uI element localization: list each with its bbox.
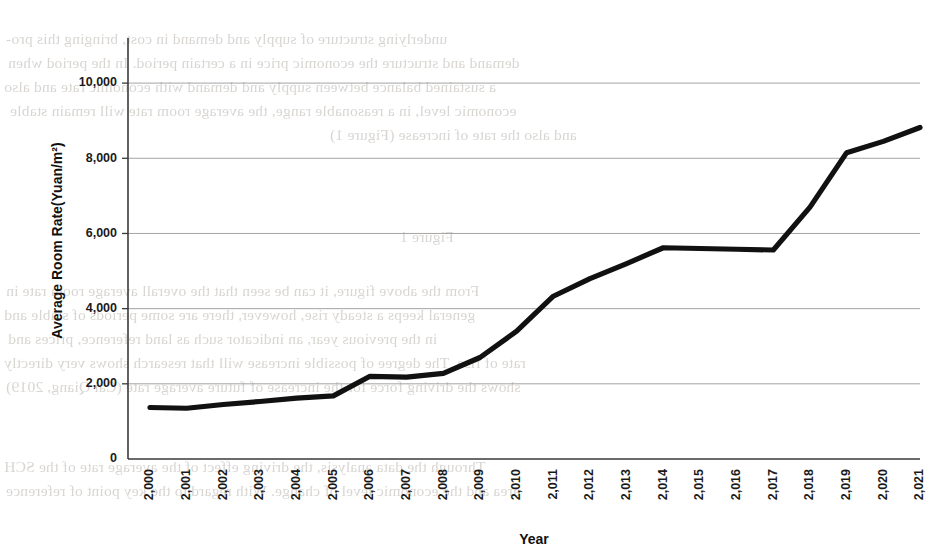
y-axis-title: Average Room Rate(Yuan/m²) <box>49 142 65 338</box>
axes <box>122 38 920 459</box>
x-tick-label: 2,002 <box>216 469 230 500</box>
y-tick-label: 2,000 <box>86 376 117 390</box>
y-tick-label: 10,000 <box>79 75 117 89</box>
x-tick-label: 2,006 <box>362 469 376 500</box>
x-tick-label: 2,005 <box>326 469 340 500</box>
gridlines <box>128 83 920 384</box>
y-tick-label: 4,000 <box>86 301 117 315</box>
x-tick-label: 2,013 <box>619 469 633 500</box>
x-tick-label: 2,003 <box>252 469 266 500</box>
x-tick-label: 2,017 <box>766 469 780 500</box>
x-tick-label: 2,021 <box>912 469 926 500</box>
chart-canvas: 02,0004,0006,0008,00010,000 2,0002,0012,… <box>40 16 930 548</box>
x-tick-label: 2,016 <box>729 469 743 500</box>
x-tick-label: 2,009 <box>472 469 486 500</box>
x-tick-label: 2,014 <box>656 469 670 500</box>
data-series <box>150 127 920 408</box>
x-tick-label: 2,001 <box>179 469 193 500</box>
x-axis-title: Year <box>519 531 549 547</box>
y-tick-label: 0 <box>110 451 117 465</box>
x-tick-label: 2,018 <box>802 469 816 500</box>
series-line <box>150 127 920 408</box>
y-axis-tick-labels: 02,0004,0006,0008,00010,000 <box>79 75 117 465</box>
x-tick-label: 2,020 <box>876 469 890 500</box>
x-tick-label: 2,007 <box>399 469 413 500</box>
average-room-rate-line-chart: 02,0004,0006,0008,00010,000 2,0002,0012,… <box>40 16 867 524</box>
y-tick-label: 8,000 <box>86 151 117 165</box>
x-tick-label: 2,010 <box>509 469 523 500</box>
x-tick-label: 2,000 <box>142 469 156 500</box>
x-tick-label: 2,019 <box>839 469 853 500</box>
x-tick-label: 2,011 <box>546 469 560 500</box>
x-tick-label: 2,008 <box>436 469 450 500</box>
x-axis-tick-labels: 2,0002,0012,0022,0032,0042,0052,0062,007… <box>142 469 926 500</box>
y-tick-label: 6,000 <box>86 226 117 240</box>
x-tick-label: 2,015 <box>692 469 706 500</box>
x-tick-label: 2,004 <box>289 469 303 500</box>
x-tick-label: 2,012 <box>582 469 596 500</box>
